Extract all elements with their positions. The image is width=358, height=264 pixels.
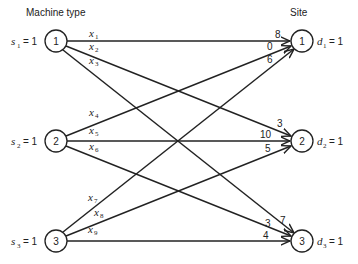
svg-text:1: 1	[95, 33, 99, 41]
svg-text:1: 1	[53, 36, 59, 47]
svg-text:9: 9	[94, 229, 98, 237]
svg-text:3: 3	[17, 242, 21, 250]
demand-label-1: d 1 = 1	[317, 35, 344, 50]
supply-label-2: s 2 = 1	[11, 135, 38, 150]
var-label-x8: x8	[93, 206, 104, 220]
cost-x5: 10	[260, 129, 272, 140]
svg-text:x: x	[87, 223, 93, 235]
var-label-x7: x7	[87, 191, 98, 205]
sink-node-1: 1	[291, 30, 313, 52]
site-header: Site	[290, 7, 308, 18]
sink-node-2: 2	[291, 130, 313, 152]
svg-text:1: 1	[323, 42, 327, 50]
svg-text:x: x	[87, 191, 93, 203]
svg-text:8: 8	[100, 212, 104, 220]
cost-x3: 7	[280, 215, 286, 226]
svg-text:3: 3	[323, 242, 327, 250]
demand-label-2: d 2 = 1	[317, 135, 344, 150]
svg-text:= 1: = 1	[23, 36, 38, 47]
svg-text:x: x	[88, 124, 94, 136]
cost-x8: 5	[265, 143, 271, 154]
svg-text:= 1: = 1	[329, 136, 344, 147]
svg-text:x: x	[88, 40, 94, 52]
svg-text:2: 2	[17, 142, 21, 150]
var-label-x3: x3	[88, 54, 99, 68]
svg-text:3: 3	[53, 236, 59, 247]
svg-text:x: x	[88, 54, 94, 66]
svg-text:3: 3	[299, 236, 305, 247]
var-label-x2: x2	[88, 40, 99, 54]
cost-x6: 3	[265, 218, 271, 229]
svg-text:6: 6	[95, 146, 99, 154]
var-label-x4: x4	[88, 106, 99, 120]
cost-x9: 4	[263, 230, 269, 241]
svg-text:2: 2	[299, 136, 305, 147]
svg-text:s: s	[11, 35, 15, 47]
svg-text:s: s	[11, 235, 15, 247]
svg-text:2: 2	[53, 136, 59, 147]
supply-label-3: s 3 = 1	[11, 235, 38, 250]
svg-text:1: 1	[299, 36, 305, 47]
svg-text:x: x	[93, 206, 99, 218]
svg-text:= 1: = 1	[23, 136, 38, 147]
source-node-2: 2	[45, 130, 67, 152]
svg-text:s: s	[11, 135, 15, 147]
source-node-3: 3	[45, 230, 67, 252]
cost-x1: 8	[275, 29, 281, 40]
machine-type-header: Machine type	[26, 7, 86, 18]
var-label-x5: x5	[88, 124, 99, 138]
svg-text:5: 5	[95, 130, 99, 138]
demand-label-3: d 3 = 1	[317, 235, 344, 250]
supply-label-1: s 1 = 1	[11, 35, 38, 50]
source-node-1: 1	[45, 30, 67, 52]
svg-text:= 1: = 1	[23, 236, 38, 247]
var-label-x9: x9	[87, 223, 98, 237]
svg-text:7: 7	[94, 197, 98, 205]
cost-x7: 6	[267, 54, 273, 65]
svg-text:3: 3	[95, 60, 99, 68]
cost-x4: 0	[267, 41, 273, 52]
svg-text:x: x	[88, 140, 94, 152]
svg-text:2: 2	[323, 142, 327, 150]
var-label-x6: x6	[88, 140, 99, 154]
cost-x2: 3	[277, 118, 283, 129]
sink-node-3: 3	[291, 230, 313, 252]
svg-text:x: x	[88, 106, 94, 118]
svg-text:1: 1	[17, 42, 21, 50]
svg-text:= 1: = 1	[329, 36, 344, 47]
var-label-x1: x1	[88, 27, 99, 41]
svg-text:2: 2	[95, 46, 99, 54]
svg-text:= 1: = 1	[329, 236, 344, 247]
svg-text:x: x	[88, 27, 94, 39]
svg-text:4: 4	[95, 112, 99, 120]
assignment-network-diagram: Machine type Site 1 2 3 1 2 3 s	[0, 0, 358, 264]
